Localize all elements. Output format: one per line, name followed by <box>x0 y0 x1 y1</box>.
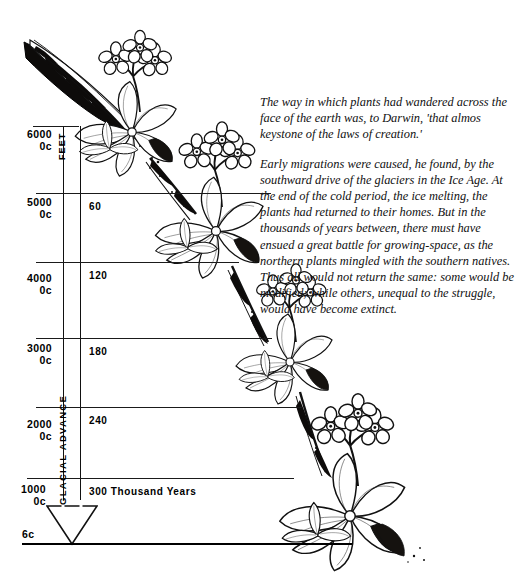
body-text: The way in which plants had wandered acr… <box>260 94 518 331</box>
gridline-1000 <box>27 478 79 479</box>
y-tick-6000-unit: 0c <box>0 140 52 152</box>
gridline-top-cap <box>33 126 79 127</box>
x-axis-unit-label: 300 Thousand Years <box>89 486 196 497</box>
y-tick-4000: 4000 0c <box>0 272 52 296</box>
y-tick-3000-value: 3000 <box>0 342 52 354</box>
x-tick-120: 120 <box>89 270 108 281</box>
y-tick-2000-unit: 0c <box>0 430 52 442</box>
axis-label-feet: FEET <box>57 133 67 160</box>
gridline-5000-right <box>79 193 271 194</box>
glacial-advance-label: GLACIAL ADVANCE <box>57 395 68 505</box>
paragraph-1: The way in which plants had wandered acr… <box>260 94 518 143</box>
baseline-6c-right <box>290 543 352 545</box>
gridline-1000-right <box>79 478 294 479</box>
gridline-3000 <box>36 338 79 339</box>
x-tick-180: 180 <box>89 346 108 357</box>
x-tick-60: 60 <box>89 201 101 212</box>
y-tick-1000: 1000 0c <box>0 483 46 507</box>
baseline-label-6c: 6c <box>22 528 34 540</box>
y-tick-3000: 3000 0c <box>0 342 52 366</box>
gridline-5000 <box>36 193 79 194</box>
y-tick-1000-unit: 0c <box>0 495 46 507</box>
y-tick-2000: 2000 0c <box>0 418 52 442</box>
paragraph-2: Early migrations were caused, he found, … <box>260 156 518 318</box>
y-tick-5000-value: 5000 <box>0 196 52 208</box>
y-tick-4000-value: 4000 <box>0 272 52 284</box>
gridline-4000-right <box>79 262 239 263</box>
glacial-advance-arrowhead <box>46 500 98 546</box>
y-tick-2000-value: 2000 <box>0 418 52 430</box>
y-tick-3000-unit: 0c <box>0 354 52 366</box>
y-tick-4000-unit: 0c <box>0 284 52 296</box>
gridline-3000-right <box>79 338 272 339</box>
y-tick-6000: 6000 0c <box>0 128 52 152</box>
y-tick-1000-value: 1000 <box>0 483 46 495</box>
y-tick-6000-value: 6000 <box>0 128 52 140</box>
y-tick-5000: 5000 0c <box>0 196 52 220</box>
gridline-4000 <box>36 262 79 263</box>
baseline-6c <box>22 543 290 545</box>
x-tick-240: 240 <box>89 415 108 426</box>
gridline-2000-right <box>79 407 303 408</box>
y-tick-5000-unit: 0c <box>0 208 52 220</box>
